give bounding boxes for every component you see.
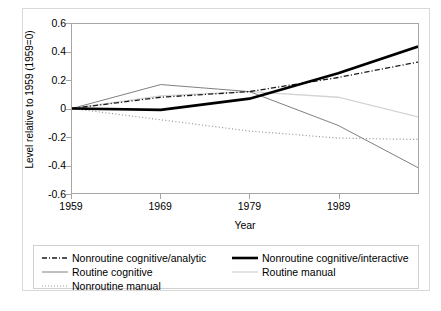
y-tick-label: 0.6 xyxy=(38,18,66,29)
legend-item-routine-manual: Routine manual xyxy=(232,265,336,279)
legend-item-routine-cognitive: Routine cognitive xyxy=(42,265,153,279)
series-line xyxy=(72,47,418,110)
x-tick-label: 1969 xyxy=(135,200,185,212)
x-axis-title: Year xyxy=(71,219,419,231)
x-tick-mark xyxy=(71,194,72,199)
legend-line-sample-dotted-icon xyxy=(42,281,68,291)
legend-line-sample-light-icon xyxy=(232,267,258,277)
legend-item-nonroutine-manual: Nonroutine manual xyxy=(42,279,161,293)
chart-figure: Level relative to 1959 (1959=0) 0.6 0.4 … xyxy=(0,0,441,311)
x-tick-mark xyxy=(160,194,161,199)
legend-line-sample-solid-icon xyxy=(42,267,68,277)
legend-label: Routine cognitive xyxy=(72,267,153,278)
y-tick-label: 0 xyxy=(38,103,66,114)
legend-item-nonroutine-cognitive-analytic: Nonroutine cognitive/analytic xyxy=(42,251,206,265)
x-tick-mark xyxy=(249,194,250,199)
y-tick-label: -0.6 xyxy=(38,189,66,200)
legend-line-sample-thick-icon xyxy=(232,253,258,263)
x-tick-label: 1989 xyxy=(314,200,364,212)
legend-label: Nonroutine cognitive/interactive xyxy=(262,253,409,264)
legend-item-nonroutine-cognitive-interactive: Nonroutine cognitive/interactive xyxy=(232,251,409,265)
x-tick-mark xyxy=(339,194,340,199)
legend-line-sample-dashdot-icon xyxy=(42,253,68,263)
plot-area xyxy=(71,23,419,194)
y-tick-label: -0.4 xyxy=(38,160,66,171)
y-tick-label: -0.2 xyxy=(38,132,66,143)
legend-label: Nonroutine cognitive/analytic xyxy=(72,253,206,264)
y-tick-label: 0.4 xyxy=(38,46,66,57)
legend-label: Nonroutine manual xyxy=(72,281,161,292)
y-axis-title: Level relative to 1959 (1959=0) xyxy=(24,10,35,190)
series-line xyxy=(72,109,418,140)
series-line xyxy=(72,85,418,168)
y-tick-label: 0.2 xyxy=(38,75,66,86)
legend-label: Routine manual xyxy=(262,267,336,278)
plot-lines xyxy=(72,24,418,193)
x-tick-label: 1979 xyxy=(224,200,274,212)
x-tick-label: 1959 xyxy=(46,200,96,212)
series-line xyxy=(72,92,418,117)
legend: Nonroutine cognitive/analytic Nonroutine… xyxy=(33,245,419,289)
